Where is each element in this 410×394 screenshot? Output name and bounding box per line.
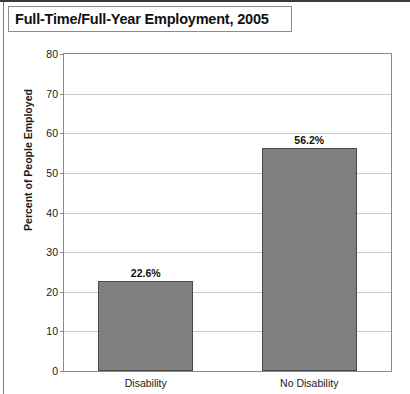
y-axis-tick-label: 50 — [46, 167, 58, 179]
bar-value-label: 22.6% — [131, 267, 161, 279]
y-axis-tick-label: 20 — [46, 286, 58, 298]
bar-chart: Percent of People Employed 0102030405060… — [0, 36, 410, 394]
gridline — [64, 133, 391, 134]
y-axis-tick-mark — [60, 54, 64, 55]
bar-value-label: 56.2% — [294, 134, 324, 146]
gridline — [64, 54, 391, 55]
y-axis-tick-label: 40 — [46, 207, 58, 219]
y-axis-tick-label: 60 — [46, 127, 58, 139]
y-axis-tick-label: 80 — [46, 48, 58, 60]
chart-title-box: Full-Time/Full-Year Employment, 2005 — [8, 6, 292, 32]
x-axis-category-label: No Disability — [280, 377, 338, 389]
y-axis-tick-label: 30 — [46, 246, 58, 258]
y-axis-tick-mark — [60, 292, 64, 293]
y-axis-tick-mark — [60, 331, 64, 332]
bar-disability: 22.6% — [98, 281, 193, 371]
page-top-rule — [0, 0, 410, 2]
bar-no-disability: 56.2% — [262, 148, 357, 371]
y-axis-tick-mark — [60, 173, 64, 174]
y-axis-tick-mark — [60, 371, 64, 372]
y-axis-tick-mark — [60, 133, 64, 134]
y-axis-tick-mark — [60, 213, 64, 214]
y-axis-tick-mark — [60, 94, 64, 95]
y-axis-title: Percent of People Employed — [22, 80, 34, 240]
page-title: Full-Time/Full-Year Employment, 2005 — [9, 11, 269, 27]
plot-area: 0102030405060708022.6%Disability56.2%No … — [63, 53, 392, 372]
y-axis-tick-label: 0 — [52, 365, 58, 377]
y-axis-tick-mark — [60, 252, 64, 253]
y-axis-tick-label: 10 — [46, 325, 58, 337]
gridline — [64, 94, 391, 95]
x-axis-category-label: Disability — [125, 377, 167, 389]
y-axis-tick-label: 70 — [46, 88, 58, 100]
chart-page: Full-Time/Full-Year Employment, 2005 Per… — [0, 0, 410, 394]
